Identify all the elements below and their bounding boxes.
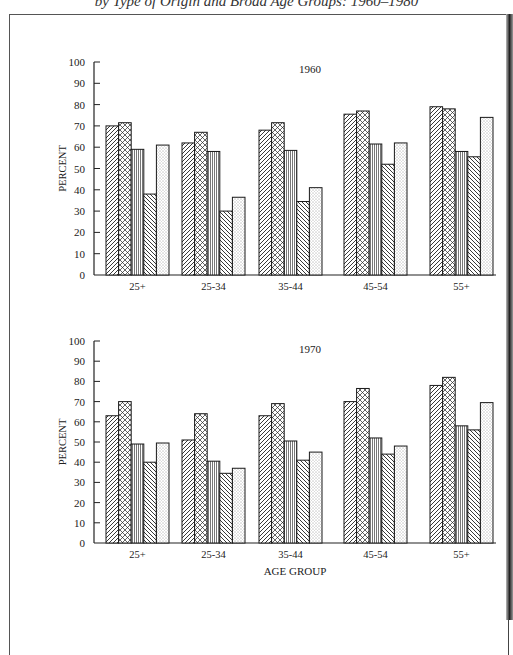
bar-vertical bbox=[369, 438, 382, 543]
bar-diag-right bbox=[430, 385, 443, 543]
bar-diag-left bbox=[220, 211, 233, 275]
y-tick-label: 10 bbox=[74, 517, 86, 529]
y-axis-label: PERCENT bbox=[57, 145, 68, 192]
bar-group-25+ bbox=[106, 402, 169, 543]
bar-dots bbox=[480, 117, 493, 275]
y-tick-label: 100 bbox=[69, 335, 86, 347]
y-tick-label: 60 bbox=[74, 416, 86, 428]
bar-vertical bbox=[207, 151, 220, 275]
bar-diag-left bbox=[382, 454, 395, 543]
chart-title: 1960 bbox=[299, 63, 322, 75]
x-category-label: 55+ bbox=[453, 549, 470, 560]
bar-vertical bbox=[284, 150, 297, 275]
bar-vertical bbox=[207, 461, 220, 543]
bar-crosshatch bbox=[357, 388, 370, 543]
bar-diag-left bbox=[144, 194, 157, 275]
y-tick-label: 20 bbox=[74, 497, 86, 509]
bar-diag-right bbox=[182, 143, 195, 275]
bar-dots bbox=[156, 443, 169, 543]
bar-diag-left bbox=[297, 460, 310, 543]
bar-crosshatch bbox=[119, 123, 132, 275]
bar-crosshatch bbox=[119, 402, 132, 543]
y-tick-label: 70 bbox=[74, 120, 86, 132]
x-category-label: 45-54 bbox=[363, 549, 388, 560]
bar-group-25-34 bbox=[182, 132, 245, 275]
bar-crosshatch bbox=[443, 109, 456, 275]
x-category-label: 25+ bbox=[129, 549, 146, 560]
bar-dots bbox=[480, 403, 493, 543]
bar-diag-right bbox=[259, 130, 272, 275]
bar-diag-right bbox=[259, 416, 272, 543]
bar-dots bbox=[156, 145, 169, 275]
bar-group-25-34 bbox=[182, 414, 245, 543]
y-tick-label: 0 bbox=[80, 269, 86, 281]
y-axis-label: PERCENT bbox=[57, 418, 68, 465]
bar-dots bbox=[232, 197, 245, 275]
bar-group-55+ bbox=[430, 377, 493, 543]
x-category-label: 25+ bbox=[129, 281, 146, 292]
x-category-label: 35-44 bbox=[278, 281, 303, 292]
bar-crosshatch bbox=[195, 132, 208, 275]
y-tick-label: 0 bbox=[80, 537, 86, 549]
x-category-label: 45-54 bbox=[363, 281, 388, 292]
x-category-label: 25-34 bbox=[201, 281, 226, 292]
chart-panel-1960: 0102030405060708090100PERCENT196025+25-3… bbox=[57, 56, 496, 292]
bar-diag-right bbox=[344, 114, 357, 275]
y-tick-label: 50 bbox=[74, 436, 86, 448]
bar-crosshatch bbox=[357, 111, 370, 275]
bar-group-55+ bbox=[430, 107, 493, 275]
chart-title: 1970 bbox=[299, 343, 322, 355]
y-tick-label: 20 bbox=[74, 226, 86, 238]
x-axis-label: AGE GROUP bbox=[264, 565, 327, 577]
bar-group-45-54 bbox=[344, 111, 407, 275]
bar-diag-right bbox=[344, 402, 357, 543]
bar-vertical bbox=[131, 444, 144, 543]
bar-group-45-54 bbox=[344, 388, 407, 543]
bar-vertical bbox=[284, 441, 297, 543]
bar-dots bbox=[309, 452, 322, 543]
y-tick-label: 30 bbox=[74, 476, 86, 488]
bar-group-25+ bbox=[106, 123, 169, 275]
bar-diag-right bbox=[430, 107, 443, 275]
chart-panel-1970: 0102030405060708090100PERCENT197025+25-3… bbox=[57, 335, 496, 577]
bar-dots bbox=[394, 446, 407, 543]
bar-diag-left bbox=[468, 430, 481, 543]
bar-dots bbox=[232, 468, 245, 543]
bar-vertical bbox=[455, 426, 468, 543]
bar-group-35-44 bbox=[259, 123, 322, 275]
y-tick-label: 70 bbox=[74, 396, 86, 408]
y-tick-label: 10 bbox=[74, 248, 86, 260]
y-tick-label: 100 bbox=[69, 56, 86, 68]
bar-dots bbox=[309, 188, 322, 275]
bar-vertical bbox=[131, 149, 144, 275]
bar-crosshatch bbox=[272, 404, 285, 543]
bar-diag-left bbox=[220, 473, 233, 543]
y-tick-label: 80 bbox=[74, 375, 86, 387]
bar-crosshatch bbox=[195, 414, 208, 543]
y-tick-label: 90 bbox=[74, 77, 86, 89]
y-tick-label: 50 bbox=[74, 163, 86, 175]
bar-vertical bbox=[369, 144, 382, 275]
bar-diag-right bbox=[106, 126, 119, 275]
y-tick-label: 40 bbox=[74, 184, 86, 196]
y-tick-label: 80 bbox=[74, 99, 86, 111]
bar-diag-left bbox=[297, 202, 310, 275]
x-category-label: 25-34 bbox=[201, 549, 226, 560]
bar-diag-left bbox=[382, 164, 395, 275]
y-tick-label: 60 bbox=[74, 141, 86, 153]
y-tick-label: 40 bbox=[74, 456, 86, 468]
x-category-label: 55+ bbox=[453, 281, 470, 292]
bar-diag-right bbox=[182, 440, 195, 543]
y-tick-label: 90 bbox=[74, 355, 86, 367]
bar-diag-left bbox=[468, 157, 481, 275]
bar-dots bbox=[394, 143, 407, 275]
x-category-label: 35-44 bbox=[278, 549, 303, 560]
y-tick-label: 30 bbox=[74, 205, 86, 217]
bar-diag-left bbox=[144, 462, 157, 543]
bar-crosshatch bbox=[272, 123, 285, 275]
bar-diag-right bbox=[106, 416, 119, 543]
bar-crosshatch bbox=[443, 377, 456, 543]
bar-group-35-44 bbox=[259, 404, 322, 543]
bar-vertical bbox=[455, 151, 468, 275]
